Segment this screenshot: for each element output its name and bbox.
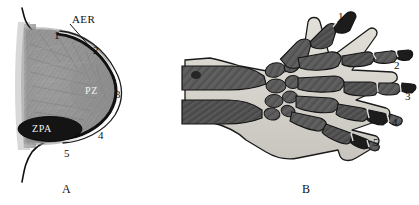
digit-1-number: 1	[338, 11, 344, 22]
panel-b-letter: B	[302, 183, 310, 195]
region-2-number: 2	[93, 45, 99, 56]
panel-a-limb-bud: AER PZ ZPA 1 2 3 4 5 A	[0, 0, 190, 205]
region-5-number: 5	[64, 148, 70, 159]
digit-4-number: 4	[392, 117, 398, 128]
limb-bud-mesenchyme	[0, 0, 190, 205]
region-4-number: 4	[98, 130, 104, 141]
panel-a-letter: A	[62, 183, 71, 195]
panel-b-hand-radiograph: 1 2 3 4 5 B	[180, 0, 419, 205]
digit-2-number: 2	[394, 60, 400, 71]
digit-5-number: 5	[373, 137, 379, 148]
region-3-number: 3	[115, 89, 121, 100]
figure-container: AER PZ ZPA 1 2 3 4 5 A	[0, 0, 419, 205]
digit-3-number: 3	[405, 91, 411, 102]
limb-bud-drawing	[0, 0, 190, 205]
zpa-label: ZPA	[32, 124, 52, 134]
hand-skeleton-drawing	[180, 0, 419, 205]
aer-label: AER	[72, 14, 95, 25]
region-1-number: 1	[54, 30, 60, 41]
pz-label: PZ	[85, 86, 98, 96]
